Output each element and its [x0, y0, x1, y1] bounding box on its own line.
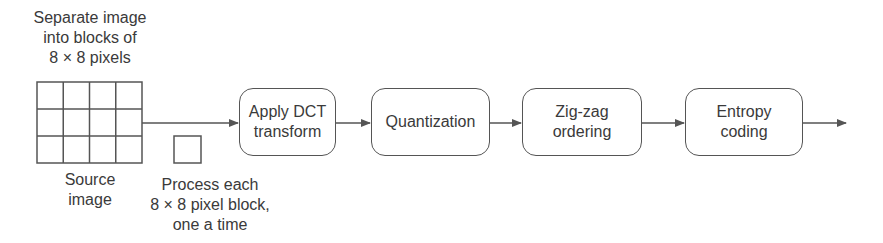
step-dct: Apply DCT transform — [239, 88, 336, 156]
step-dct-label: Apply DCT transform — [249, 102, 326, 142]
step-quantization-label: Quantization — [386, 112, 476, 132]
step-entropy-label: Entropy coding — [716, 102, 771, 142]
step-zigzag: Zig-zag ordering — [522, 88, 642, 156]
step-entropy: Entropy coding — [685, 88, 803, 156]
step-zigzag-label: Zig-zag ordering — [553, 102, 612, 142]
block-process-label: Process each 8 × 8 pixel block, one a ti… — [130, 175, 290, 235]
source-image-grid — [37, 82, 142, 163]
step-quantization: Quantization — [371, 88, 490, 156]
source-image-label: Source image — [40, 170, 140, 210]
pixel-block — [174, 136, 201, 163]
